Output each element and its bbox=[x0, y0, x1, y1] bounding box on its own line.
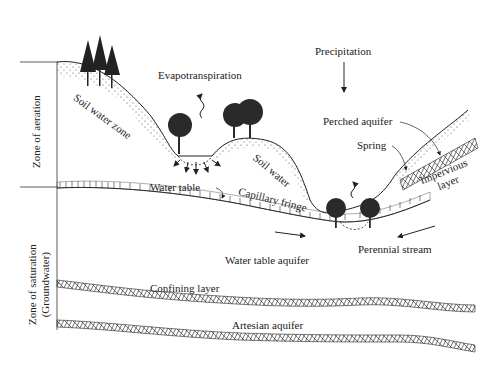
spring-label: Spring bbox=[357, 140, 386, 151]
tree-stream-left bbox=[326, 198, 346, 228]
zone-of-saturation-line1: Zone of saturation bbox=[26, 244, 39, 325]
zone-of-aeration-label: Zone of aeration bbox=[30, 95, 43, 168]
zone-of-saturation-label: Zone of saturation (Groundwater) bbox=[26, 244, 51, 325]
confining-layer-label: Confining layer bbox=[150, 283, 219, 294]
precipitation-label: Precipitation bbox=[315, 46, 371, 57]
perched-aquifer-label: Perched aquifer bbox=[323, 116, 392, 127]
evapotranspiration-arrow bbox=[200, 94, 204, 118]
perennial-stream-water bbox=[340, 222, 368, 230]
confining-layer bbox=[57, 280, 475, 312]
artesian-aquifer-label: Artesian aquifer bbox=[232, 320, 303, 331]
infiltration-arrows bbox=[174, 160, 220, 174]
tree-cluster-hill bbox=[223, 99, 263, 138]
perennial-stream-label: Perennial stream bbox=[358, 244, 432, 255]
zone-of-saturation-line2: (Groundwater) bbox=[39, 244, 52, 325]
water-table-aquifer-label: Water table aquifer bbox=[225, 255, 309, 266]
water-table-label: Water table bbox=[150, 182, 200, 193]
stream-evaporation-arrow bbox=[351, 182, 355, 198]
evapotranspiration-label: Evapotranspiration bbox=[158, 70, 242, 81]
tree-stream-right bbox=[360, 198, 380, 228]
flow-arrow-left bbox=[275, 232, 305, 236]
flow-arrow-right bbox=[398, 226, 435, 237]
